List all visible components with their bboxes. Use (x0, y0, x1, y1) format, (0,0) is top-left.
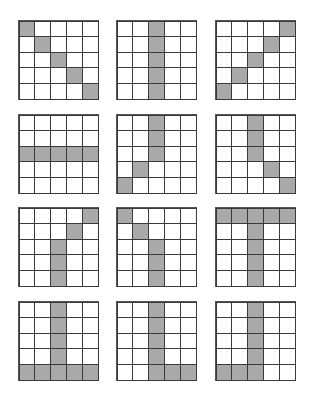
empty-cell (263, 333, 280, 350)
grid-panel-r4c1 (18, 301, 99, 381)
empty-cell (132, 130, 149, 147)
empty-cell (279, 161, 296, 178)
empty-cell (180, 36, 197, 53)
empty-cell (132, 146, 149, 163)
empty-cell (117, 67, 134, 84)
filled-cell (34, 36, 51, 53)
filled-cell (66, 67, 83, 84)
empty-cell (19, 302, 36, 319)
empty-cell (132, 67, 149, 84)
empty-cell (279, 254, 296, 271)
empty-cell (66, 21, 83, 38)
filled-cell (50, 302, 67, 319)
empty-cell (263, 52, 280, 69)
empty-cell (247, 67, 264, 84)
empty-cell (50, 130, 67, 147)
empty-cell (180, 161, 197, 178)
empty-cell (19, 270, 36, 287)
empty-cell (164, 208, 181, 225)
filled-cell (19, 21, 36, 38)
empty-cell (66, 115, 83, 132)
empty-cell (19, 52, 36, 69)
filled-cell (247, 130, 264, 147)
empty-cell (82, 239, 99, 256)
empty-cell (164, 21, 181, 38)
empty-cell (66, 52, 83, 69)
filled-cell (247, 333, 264, 350)
empty-cell (216, 130, 233, 147)
empty-cell (216, 21, 233, 38)
empty-cell (247, 21, 264, 38)
empty-cell (263, 239, 280, 256)
empty-cell (263, 254, 280, 271)
grid-panel-r4c3 (215, 301, 296, 381)
grid-panel-r3c2 (116, 207, 197, 287)
empty-cell (216, 52, 233, 69)
empty-cell (231, 223, 248, 240)
empty-cell (34, 270, 51, 287)
empty-cell (164, 239, 181, 256)
filled-cell (263, 208, 280, 225)
empty-cell (34, 348, 51, 365)
empty-cell (82, 115, 99, 132)
empty-cell (263, 348, 280, 365)
empty-cell (247, 161, 264, 178)
empty-cell (216, 254, 233, 271)
empty-cell (231, 21, 248, 38)
filled-cell (148, 130, 165, 147)
empty-cell (66, 333, 83, 350)
empty-cell (82, 52, 99, 69)
empty-cell (279, 146, 296, 163)
empty-cell (19, 317, 36, 334)
empty-cell (231, 130, 248, 147)
filled-cell (216, 83, 233, 100)
filled-cell (50, 52, 67, 69)
filled-cell (231, 67, 248, 84)
empty-cell (279, 348, 296, 365)
empty-cell (50, 83, 67, 100)
empty-cell (117, 83, 134, 100)
empty-cell (82, 270, 99, 287)
filled-cell (50, 146, 67, 163)
empty-cell (50, 177, 67, 194)
filled-cell (164, 364, 181, 381)
empty-cell (279, 364, 296, 381)
empty-cell (82, 254, 99, 271)
empty-cell (164, 270, 181, 287)
empty-cell (66, 208, 83, 225)
empty-cell (231, 177, 248, 194)
empty-cell (148, 223, 165, 240)
empty-cell (231, 239, 248, 256)
empty-cell (19, 130, 36, 147)
empty-cell (50, 36, 67, 53)
empty-cell (180, 302, 197, 319)
filled-cell (50, 348, 67, 365)
empty-cell (34, 208, 51, 225)
empty-cell (263, 115, 280, 132)
filled-cell (180, 364, 197, 381)
empty-cell (50, 161, 67, 178)
empty-cell (231, 83, 248, 100)
empty-cell (82, 223, 99, 240)
empty-cell (263, 317, 280, 334)
empty-cell (66, 161, 83, 178)
filled-cell (247, 146, 264, 163)
empty-cell (132, 177, 149, 194)
empty-cell (216, 333, 233, 350)
empty-cell (263, 223, 280, 240)
empty-cell (50, 67, 67, 84)
empty-cell (34, 254, 51, 271)
empty-cell (279, 239, 296, 256)
empty-cell (82, 302, 99, 319)
empty-cell (231, 254, 248, 271)
grid-panel-r2c1 (18, 114, 99, 194)
empty-cell (34, 130, 51, 147)
filled-cell (148, 302, 165, 319)
empty-cell (34, 21, 51, 38)
empty-cell (132, 270, 149, 287)
empty-cell (117, 254, 134, 271)
empty-cell (164, 254, 181, 271)
empty-cell (180, 83, 197, 100)
empty-cell (263, 67, 280, 84)
empty-cell (216, 348, 233, 365)
